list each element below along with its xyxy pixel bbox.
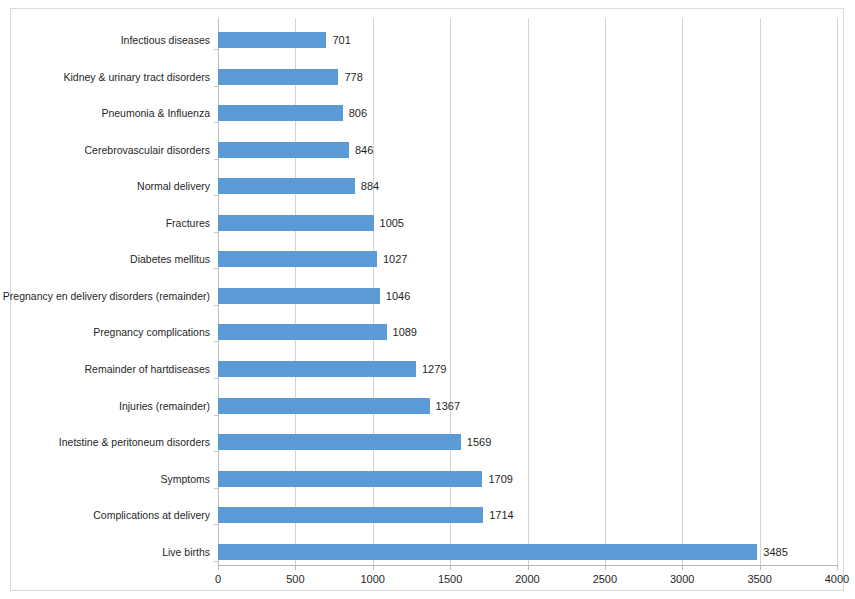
- x-tick-0: [218, 565, 219, 570]
- bar-row: Complications at delivery1714: [0, 506, 855, 524]
- bar-chart-figure: Infectious diseases701Kidney & urinary t…: [0, 0, 855, 599]
- bar-row: Infectious diseases701: [0, 31, 855, 49]
- x-tick-1000: [373, 565, 374, 570]
- x-tick-3000: [682, 565, 683, 570]
- bar-value-label: 701: [332, 31, 350, 49]
- bar-row: Injuries (remainder)1367: [0, 397, 855, 415]
- bar-row: Symptoms1709: [0, 470, 855, 488]
- bar: [218, 288, 380, 304]
- bar-value-label: 1709: [488, 470, 512, 488]
- bar-row: Kidney & urinary tract disorders778: [0, 68, 855, 86]
- bar-value-label: 1279: [422, 360, 446, 378]
- category-tick: [214, 122, 218, 123]
- bar-row: Pregnancy complications1089: [0, 323, 855, 341]
- bar: [218, 251, 377, 267]
- x-tick-label-3000: 3000: [652, 573, 712, 586]
- category-label: Injuries (remainder): [119, 397, 210, 415]
- bar: [218, 434, 461, 450]
- x-tick-label-3500: 3500: [730, 573, 790, 586]
- bar-row: Inetstine & peritoneum disorders1569: [0, 433, 855, 451]
- category-tick: [214, 341, 218, 342]
- category-tick: [214, 268, 218, 269]
- bar-row: Live births3485: [0, 543, 855, 561]
- bar-row: Normal delivery884: [0, 177, 855, 195]
- bar-value-label: 3485: [763, 543, 787, 561]
- x-tick-label-1000: 1000: [343, 573, 403, 586]
- bar: [218, 324, 387, 340]
- x-tick-label-4000: 4000: [807, 573, 855, 586]
- category-label: Fractures: [166, 214, 210, 232]
- x-tick-label-2500: 2500: [575, 573, 635, 586]
- x-tick-label-0: 0: [188, 573, 248, 586]
- x-tick-label-1500: 1500: [420, 573, 480, 586]
- bar-value-label: 1367: [436, 397, 460, 415]
- category-label: Infectious diseases: [121, 31, 210, 49]
- category-tick: [214, 232, 218, 233]
- bar: [218, 32, 326, 48]
- x-tick-label-2000: 2000: [498, 573, 558, 586]
- bar-row: Pregnancy en delivery disorders (remaind…: [0, 287, 855, 305]
- category-label: Pneumonia & Influenza: [101, 104, 210, 122]
- bar: [218, 142, 349, 158]
- x-tick-label-500: 500: [265, 573, 325, 586]
- bar: [218, 398, 430, 414]
- category-label: Symptoms: [160, 470, 210, 488]
- bar: [218, 361, 416, 377]
- x-tick-3500: [760, 565, 761, 570]
- bar-row: Remainder of hartdiseases1279: [0, 360, 855, 378]
- x-tick-4000: [837, 565, 838, 570]
- category-label: Remainder of hartdiseases: [85, 360, 210, 378]
- x-tick-1500: [450, 565, 451, 570]
- category-tick: [214, 305, 218, 306]
- bar-value-label: 1569: [467, 433, 491, 451]
- bar-value-label: 846: [355, 141, 373, 159]
- category-label: Cerebrovasculair disorders: [85, 141, 210, 159]
- category-label: Complications at delivery: [93, 506, 210, 524]
- bar-row: Diabetes mellitus1027: [0, 250, 855, 268]
- bar-value-label: 1714: [489, 506, 513, 524]
- category-label: Inetstine & peritoneum disorders: [59, 433, 210, 451]
- bar: [218, 507, 483, 523]
- bar-value-label: 884: [361, 177, 379, 195]
- bar-row: Pneumonia & Influenza806: [0, 104, 855, 122]
- category-tick: [214, 195, 218, 196]
- category-label: Normal delivery: [137, 177, 210, 195]
- category-label: Pregnancy complications: [93, 323, 210, 341]
- x-tick-500: [295, 565, 296, 570]
- category-label: Pregnancy en delivery disorders (remaind…: [3, 287, 210, 305]
- category-tick: [214, 159, 218, 160]
- bar-value-label: 1089: [393, 323, 417, 341]
- bar-row: Cerebrovasculair disorders846: [0, 141, 855, 159]
- bar: [218, 471, 482, 487]
- bar: [218, 105, 343, 121]
- bar-value-label: 806: [349, 104, 367, 122]
- x-tick-2000: [528, 565, 529, 570]
- category-label: Diabetes mellitus: [130, 250, 210, 268]
- category-tick: [214, 49, 218, 50]
- category-tick: [214, 561, 218, 562]
- category-tick: [214, 86, 218, 87]
- category-tick: [214, 451, 218, 452]
- bar-value-label: 1005: [380, 214, 404, 232]
- bar-row: Fractures1005: [0, 214, 855, 232]
- category-tick: [214, 488, 218, 489]
- bar: [218, 178, 355, 194]
- bar-value-label: 1027: [383, 250, 407, 268]
- category-label: Kidney & urinary tract disorders: [64, 68, 210, 86]
- category-tick: [214, 378, 218, 379]
- x-tick-2500: [605, 565, 606, 570]
- bar-value-label: 1046: [386, 287, 410, 305]
- bar: [218, 69, 338, 85]
- bar-value-label: 778: [344, 68, 362, 86]
- category-tick: [214, 524, 218, 525]
- bar: [218, 544, 757, 560]
- bar: [218, 215, 374, 231]
- category-tick: [214, 415, 218, 416]
- category-label: Live births: [162, 543, 210, 561]
